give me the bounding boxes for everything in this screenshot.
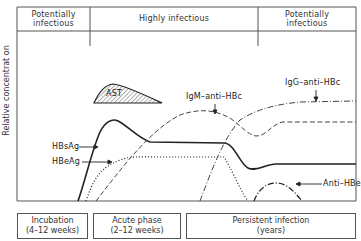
igm-anti-hbc-curve [96,111,356,201]
stage-acute-phase: Acute phase (2–12 weeks) [93,213,181,239]
phase-potentially-infectious-late: Potentially infectious [258,10,356,28]
igg-anti-hbc-label: IgG–anti–HBc [285,78,340,87]
stage-incubation: Incubation (4–12 weeks) [17,213,88,239]
label-arrows [79,90,322,186]
ast-label: AST [106,89,122,98]
phase-highly-infectious: Highly infectious [90,14,258,23]
hbsag-curve [78,120,356,201]
ast-curve [94,84,162,103]
hbeag-curve [86,157,248,201]
anti-hbe-curve [254,183,302,201]
anti-hbe-label: Anti–HBe [323,179,361,188]
igm-anti-hbc-label: IgM–anti–HBc [186,92,242,101]
stage-persistent-infection: Persistent infection (years) [186,213,356,239]
phase-potentially-infectious-early: Potentially infectious [17,10,90,28]
hbsag-label: HBsAg [52,142,79,151]
y-axis-label: Relative concentrat on [2,41,11,141]
hbeag-label: HBeAg [52,157,80,166]
phase-header-frame [17,7,356,201]
